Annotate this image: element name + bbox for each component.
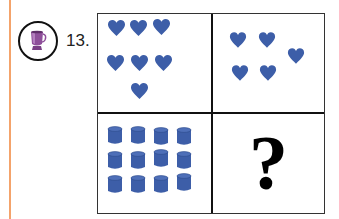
cylinder-icon <box>130 126 146 145</box>
cell-hearts-five <box>213 14 323 112</box>
cylinder-icon <box>107 126 123 145</box>
heart-icon <box>154 54 173 72</box>
heart-icon <box>130 54 149 72</box>
cylinder-icon <box>153 175 169 194</box>
cup-icon <box>29 30 47 52</box>
cylinder-icon <box>176 151 192 170</box>
cylinder-icon <box>130 175 146 194</box>
cell-hearts-seven <box>98 14 211 112</box>
cylinder-icon <box>176 127 192 146</box>
heart-icon <box>287 47 305 65</box>
cylinder-icon <box>153 149 169 168</box>
margin-line <box>9 0 11 219</box>
heart-icon <box>130 82 149 100</box>
heart-icon <box>229 31 247 49</box>
cylinder-icon <box>130 151 146 170</box>
heart-icon <box>258 31 276 49</box>
cylinder-icon <box>153 127 169 146</box>
heart-icon <box>106 54 125 72</box>
heart-icon <box>107 19 126 37</box>
cylinder-icon <box>176 173 192 192</box>
cup-badge <box>18 21 58 61</box>
cylinder-icon <box>107 175 123 194</box>
heart-icon <box>129 19 148 37</box>
analogy-grid: ? <box>97 13 325 214</box>
question-mark: ? <box>249 120 288 206</box>
heart-icon <box>152 18 171 36</box>
heart-icon <box>231 64 249 82</box>
cell-unknown: ? <box>213 114 323 212</box>
cylinder-icon <box>107 151 123 170</box>
question-number: 13. <box>66 31 90 51</box>
heart-icon <box>259 64 277 82</box>
cell-cylinders-twelve <box>98 114 211 212</box>
